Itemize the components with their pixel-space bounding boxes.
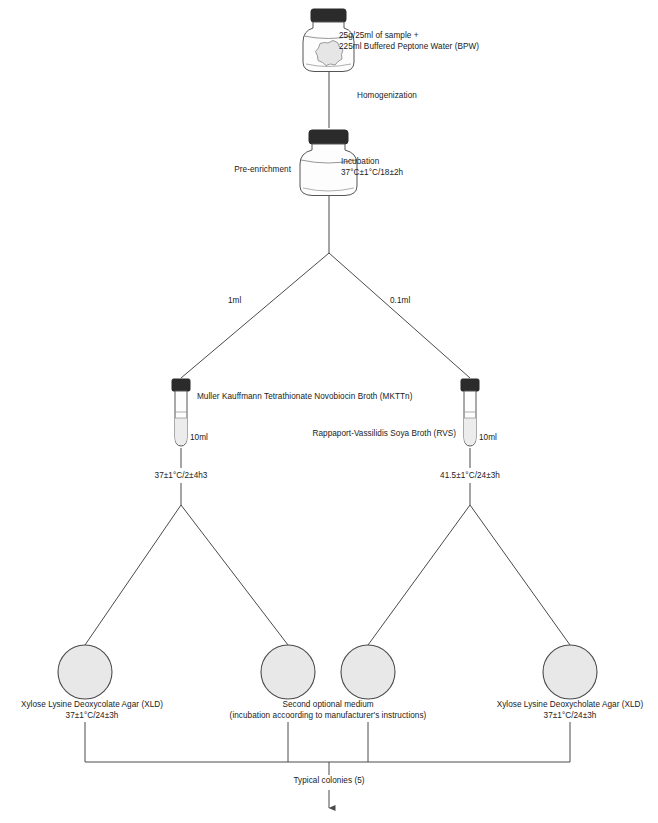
sample-label-line2: 225ml Buffered Peptone Water (BPW) — [339, 42, 479, 53]
incubation-label-line1: Incubation — [341, 157, 403, 168]
homogenization-label: Homogenization — [357, 90, 417, 101]
plate-label-1-line1: Xylose Lysine Deoxycolate Agar (XLD) — [21, 700, 163, 711]
rvs-volume-label: 10ml — [479, 432, 497, 443]
connector-rvs-split-right — [470, 505, 570, 645]
connector-split-right — [329, 253, 470, 378]
plate-label-4-line2: 37±1°C/24±3h — [497, 711, 644, 722]
connector-split-left — [181, 253, 329, 378]
petri-dish-4 — [543, 645, 597, 699]
plate-label-4-line1: Xylose Lysine Deoxycholate Agar (XLD) — [497, 700, 644, 711]
rvs-incubation-label: 41.5±1°C/24±3h — [440, 470, 500, 481]
sample-label-line1: 25g/25ml of sample + — [339, 31, 479, 42]
mkttn-volume-label: 10ml — [190, 432, 208, 443]
petri-dish-3 — [341, 645, 395, 699]
plate-label-1: Xylose Lysine Deoxycolate Agar (XLD) 37±… — [21, 700, 163, 721]
volume-left-label: 1ml — [228, 295, 241, 306]
mkttn-tube-icon — [172, 379, 190, 446]
sample-label: 25g/25ml of sample + 225ml Buffered Pept… — [339, 31, 479, 52]
pre-enrichment-label: Pre-enrichment — [234, 164, 291, 175]
plate-label-2-line1: Second optional medium — [230, 700, 427, 711]
petri-dish-2 — [261, 645, 315, 699]
incubation-label: Incubation 37°C±1°C/18±2h — [341, 157, 403, 178]
typical-colonies-label: Typical colonies (5) — [293, 775, 364, 786]
plate-label-1-line2: 37±1°C/24±3h — [21, 711, 163, 722]
connector-rvs-split-left — [368, 505, 470, 645]
petri-dishes — [58, 645, 597, 699]
volume-right-label: 0.1ml — [390, 295, 410, 306]
rvs-tube-icon — [461, 379, 479, 446]
flow-diagram: 25g/25ml of sample + 225ml Buffered Pept… — [0, 0, 658, 823]
incubation-label-line2: 37°C±1°C/18±2h — [341, 168, 403, 179]
rvs-name-label: Rappaport-Vassilidis Soya Broth (RVS) — [312, 428, 456, 439]
plate-label-2-line2: (incubation accoording to manufacturer's… — [230, 711, 427, 722]
plate-label-4: Xylose Lysine Deoxycholate Agar (XLD) 37… — [497, 700, 644, 721]
petri-dish-1 — [58, 645, 112, 699]
mkttn-incubation-label: 37±1°C/2±4h3 — [155, 470, 208, 481]
connector-mkttn-split-right — [181, 505, 288, 645]
plate-label-2: Second optional medium (incubation accoo… — [230, 700, 427, 721]
mkttn-name-label: Muller Kauffmann Tetrathionate Novobioci… — [197, 391, 412, 402]
connector-mkttn-split-left — [85, 505, 181, 645]
